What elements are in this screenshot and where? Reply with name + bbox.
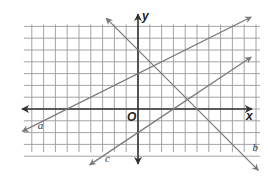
y-axis-label: y (141, 9, 150, 23)
line-label-b: b (252, 141, 258, 153)
line-label-a: a (38, 119, 44, 131)
line-b (106, 18, 258, 170)
line-label-c: c (105, 152, 110, 164)
line-a (22, 17, 251, 131)
coordinate-plane: abc x y O (0, 0, 268, 181)
plotted-lines: abc (22, 17, 258, 170)
origin-label: O (127, 110, 137, 124)
axes (22, 14, 252, 164)
x-axis-label: x (245, 109, 254, 123)
